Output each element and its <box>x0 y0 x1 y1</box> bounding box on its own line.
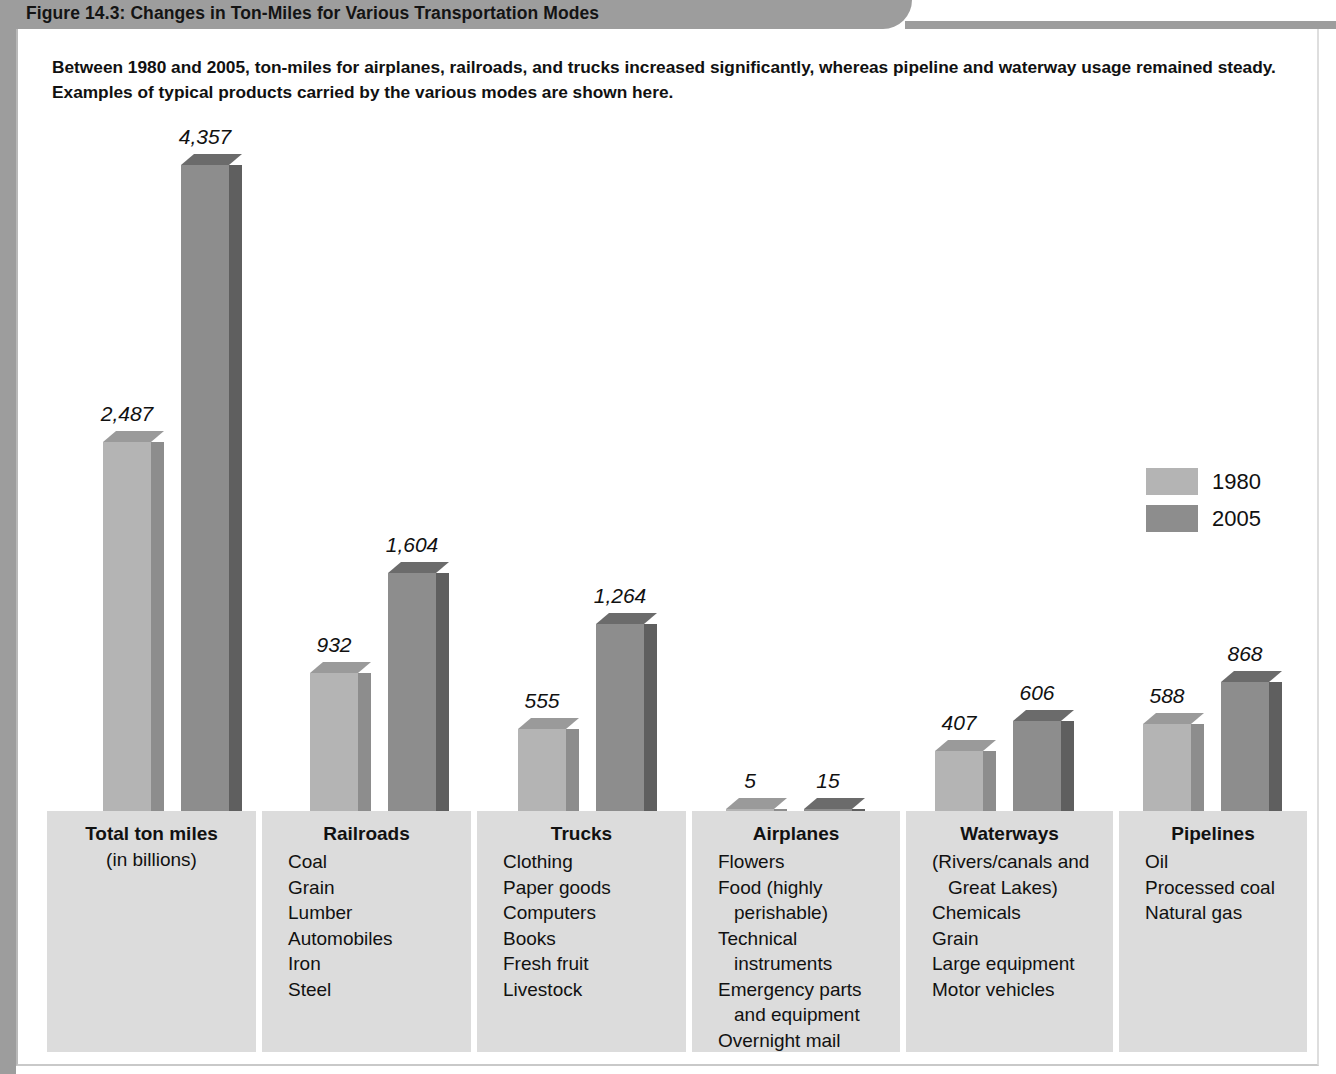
category-list-item: Large equipment <box>932 951 1107 977</box>
category-list-item: Oil <box>1145 849 1301 875</box>
legend-item-1980: 1980 <box>1146 463 1261 500</box>
category-list-item: Computers <box>503 900 680 926</box>
category-list-item: Steel <box>288 977 465 1003</box>
category-list-item: (Rivers/canals and Great Lakes) <box>932 849 1107 900</box>
category-list-item: Motor vehicles <box>932 977 1107 1003</box>
category-box-total-ton-miles: Total ton miles(in billions) <box>47 811 256 1052</box>
category-title: Railroads <box>262 823 471 845</box>
figure-root: Figure 14.3: Changes in Ton-Miles for Va… <box>0 0 1336 1074</box>
category-list-item: Fresh fruit <box>503 951 680 977</box>
category-title: Total ton miles <box>47 823 256 845</box>
figure-caption: Between 1980 and 2005, ton-miles for air… <box>52 55 1287 105</box>
category-box-railroads: RailroadsCoalGrainLumberAutomobilesIronS… <box>262 811 471 1052</box>
category-list-item: Natural gas <box>1145 900 1301 926</box>
category-list-item: Emergency parts and equipment <box>718 977 894 1028</box>
category-list-item: Food (highly perishable) <box>718 875 894 926</box>
figure-title: Figure 14.3: Changes in Ton-Miles for Va… <box>26 3 599 24</box>
category-list-item: Technical instruments <box>718 926 894 977</box>
category-list-item: Lumber <box>288 900 465 926</box>
category-list-item: Iron <box>288 951 465 977</box>
category-title: Waterways <box>906 823 1113 845</box>
category-title: Airplanes <box>692 823 900 845</box>
legend-label-2005: 2005 <box>1212 506 1261 532</box>
category-box-airplanes: AirplanesFlowersFood (highly perishable)… <box>692 811 900 1052</box>
category-list-item: Clothing <box>503 849 680 875</box>
category-title: Pipelines <box>1119 823 1307 845</box>
category-list-item: Automobiles <box>288 926 465 952</box>
category-list-item: Books <box>503 926 680 952</box>
category-item-list: OilProcessed coalNatural gas <box>1119 849 1307 926</box>
category-title: Trucks <box>477 823 686 845</box>
category-list-item: Coal <box>288 849 465 875</box>
category-list-item: Paper goods <box>503 875 680 901</box>
category-list-item: Overnight mail <box>718 1028 894 1054</box>
figure-header-rule <box>905 21 1336 29</box>
category-subtitle: (in billions) <box>47 849 256 871</box>
category-box-trucks: TrucksClothingPaper goodsComputersBooksF… <box>477 811 686 1052</box>
category-item-list: CoalGrainLumberAutomobilesIronSteel <box>262 849 471 1002</box>
legend-label-1980: 1980 <box>1212 469 1261 495</box>
legend-swatch-1980-icon <box>1146 468 1198 495</box>
category-item-list: (Rivers/canals and Great Lakes)Chemicals… <box>906 849 1113 1002</box>
category-list-item: Processed coal <box>1145 875 1301 901</box>
category-item-list: FlowersFood (highly perishable)Technical… <box>692 849 900 1053</box>
category-boxes: Total ton miles(in billions)RailroadsCoa… <box>47 811 1287 1052</box>
legend-item-2005: 2005 <box>1146 500 1261 537</box>
chart-legend: 1980 2005 <box>1146 463 1261 537</box>
category-list-item: Chemicals <box>932 900 1107 926</box>
category-box-pipelines: PipelinesOilProcessed coalNatural gas <box>1119 811 1307 1052</box>
category-list-item: Livestock <box>503 977 680 1003</box>
legend-swatch-2005-icon <box>1146 505 1198 532</box>
category-box-waterways: Waterways(Rivers/canals and Great Lakes)… <box>906 811 1113 1052</box>
frame-spine-left <box>0 116 16 1074</box>
category-item-list: ClothingPaper goodsComputersBooksFresh f… <box>477 849 686 1002</box>
category-list-item: Grain <box>932 926 1107 952</box>
category-list-item: Flowers <box>718 849 894 875</box>
category-list-item: Grain <box>288 875 465 901</box>
